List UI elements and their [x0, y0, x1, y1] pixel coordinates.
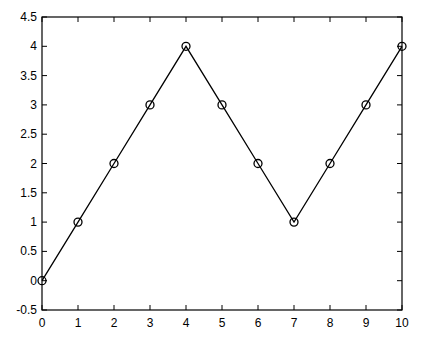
- y-tick-label: -0.5: [16, 303, 37, 317]
- x-tick-label: 5: [219, 316, 226, 330]
- y-tick-label: 1: [30, 215, 37, 229]
- x-tick-label: 0: [39, 316, 46, 330]
- y-tick-label: 1.5: [20, 186, 37, 200]
- x-tick-label: 2: [111, 316, 118, 330]
- x-tick-label: 8: [327, 316, 334, 330]
- y-tick-label: 2: [30, 157, 37, 171]
- x-tick-label: 6: [255, 316, 262, 330]
- x-tick-label: 10: [395, 316, 409, 330]
- x-tick-label: 3: [147, 316, 154, 330]
- plot-area: 012345678910-0.500.511.522.533.544.5: [16, 10, 409, 330]
- x-tick-label: 1: [75, 316, 82, 330]
- y-tick-label: 4.5: [20, 10, 37, 24]
- y-tick-label: 0: [30, 274, 37, 288]
- y-tick-label: 0.5: [20, 244, 37, 258]
- data-line: [42, 46, 402, 280]
- y-tick-label: 3.5: [20, 69, 37, 83]
- y-tick-label: 4: [30, 39, 37, 53]
- x-tick-label: 4: [183, 316, 190, 330]
- x-tick-label: 7: [291, 316, 298, 330]
- x-tick-label: 9: [363, 316, 370, 330]
- axes-frame: [42, 17, 402, 310]
- line-chart: 012345678910-0.500.511.522.533.544.5: [0, 0, 422, 344]
- y-tick-label: 3: [30, 98, 37, 112]
- y-tick-label: 2.5: [20, 127, 37, 141]
